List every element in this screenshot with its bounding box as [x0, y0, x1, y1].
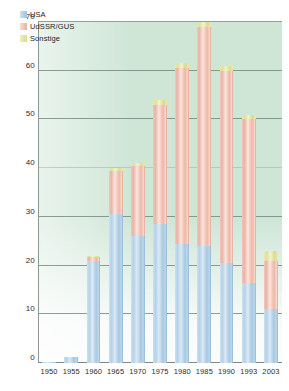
x-tick-label-1980: 1980	[174, 367, 191, 376]
stacked-bar-chart: 010203040506070 195019551960196519701975…	[0, 0, 289, 391]
x-tick-label-1990: 1990	[218, 367, 235, 376]
chart-legend: USA UdSSR/GUS Sonstige	[20, 10, 74, 43]
bar-segment-usa	[220, 263, 234, 363]
y-tick-label-50: 50	[26, 109, 35, 118]
y-tick-label-0: 0	[30, 353, 35, 362]
x-tick-label-2003: 2003	[262, 367, 279, 376]
x-tick-label-1975: 1975	[151, 367, 168, 376]
x-tick-label-1950: 1950	[41, 367, 58, 376]
plot-area: 010203040506070 195019551960196519701975…	[38, 22, 282, 363]
bar-column	[109, 168, 123, 363]
bar-segment-sonstige	[264, 251, 278, 261]
legend-item-sonstige: Sonstige	[20, 34, 74, 43]
y-tick-label-40: 40	[26, 158, 35, 167]
bar-segment-udssr	[131, 166, 145, 237]
legend-item-usa: USA	[20, 10, 74, 19]
bar-column	[242, 115, 256, 363]
bar-column	[264, 251, 278, 363]
bar-series-group	[38, 22, 282, 363]
y-tick-label-20: 20	[26, 255, 35, 264]
bar-segment-udssr	[220, 71, 234, 263]
bar-segment-udssr	[175, 68, 189, 243]
udssr-swatch-icon	[20, 23, 27, 30]
bar-segment-udssr	[242, 119, 256, 282]
y-tick-label-30: 30	[26, 206, 35, 215]
x-tick-label-1955: 1955	[63, 367, 80, 376]
bar-segment-usa	[64, 357, 78, 363]
bar-segment-usa	[175, 244, 189, 363]
bar-segment-udssr	[153, 105, 167, 224]
bar-column	[153, 100, 167, 363]
bar-segment-usa	[153, 224, 167, 363]
x-tick-label-1993: 1993	[240, 367, 257, 376]
x-tick-label-1960: 1960	[85, 367, 102, 376]
bar-segment-usa	[42, 362, 56, 363]
bar-column	[197, 22, 211, 363]
usa-swatch-icon	[20, 11, 27, 18]
x-tick-label-1985: 1985	[196, 367, 213, 376]
bar-column	[175, 63, 189, 363]
bar-segment-usa	[109, 214, 123, 363]
bar-column	[87, 256, 101, 363]
bar-segment-udssr	[109, 171, 123, 215]
bar-column	[64, 357, 78, 363]
y-tick-label-10: 10	[26, 304, 35, 313]
bar-segment-usa	[87, 261, 101, 363]
legend-item-udssr: UdSSR/GUS	[20, 22, 74, 31]
y-tick-label-60: 60	[26, 60, 35, 69]
bar-column	[42, 362, 56, 363]
legend-label-sonstige: Sonstige	[30, 34, 60, 43]
bar-segment-usa	[197, 246, 211, 363]
bar-segment-usa	[131, 236, 145, 363]
bar-segment-usa	[264, 309, 278, 363]
x-tick-label-1965: 1965	[107, 367, 124, 376]
bar-segment-udssr	[197, 27, 211, 246]
bar-column	[220, 66, 234, 363]
x-tick-label-1970: 1970	[129, 367, 146, 376]
sonstige-swatch-icon	[20, 35, 27, 42]
bar-segment-usa	[242, 283, 256, 363]
bar-segment-udssr	[264, 261, 278, 310]
legend-label-udssr: UdSSR/GUS	[30, 22, 74, 31]
legend-label-usa: USA	[30, 10, 46, 19]
bar-column	[131, 163, 145, 363]
